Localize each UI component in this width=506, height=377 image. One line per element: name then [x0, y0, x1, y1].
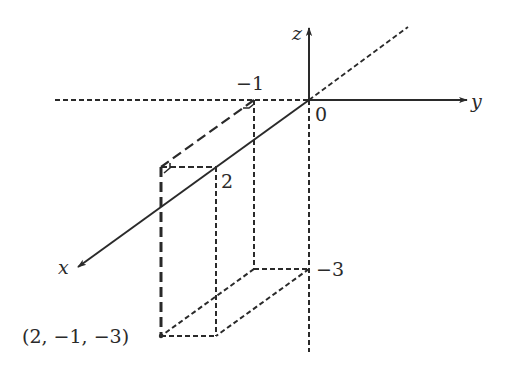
- tick-label-z-neg3: −3: [316, 258, 344, 280]
- tick-label-y-neg1: −1: [236, 72, 264, 94]
- tick-label-x-2: 2: [221, 170, 233, 192]
- bottom-edge-diag-front: [216, 269, 309, 336]
- x-axis-label: x: [58, 256, 69, 278]
- point-marker: [159, 334, 163, 338]
- x-axis: [78, 100, 309, 267]
- x-axis-negative-dashed: [309, 27, 408, 100]
- bottom-edge-diag-back: [161, 269, 254, 336]
- z-axis-label: z: [291, 22, 303, 44]
- projection-line-y-neg1-to-point-xy: [161, 100, 254, 167]
- coordinate-diagram: z y x 0 −1 2 −3 (2, −1, −3): [0, 0, 506, 377]
- origin-label: 0: [315, 103, 327, 125]
- point-label: (2, −1, −3): [22, 325, 129, 347]
- y-axis-label: y: [470, 90, 482, 112]
